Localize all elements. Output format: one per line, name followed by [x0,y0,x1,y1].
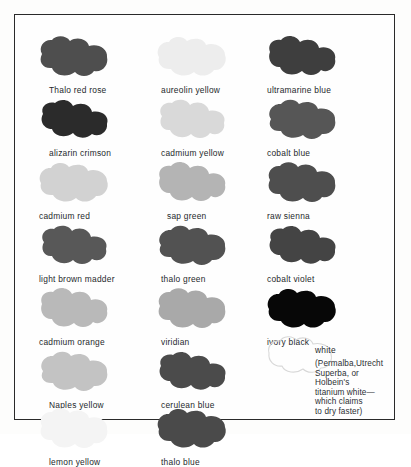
palette-swatch: aureolin yellow [155,35,273,95]
palette-swatch: cadmium red [37,161,155,221]
blob-shape [155,224,231,272]
blob-shape [155,35,231,83]
paint-blob-light-brown-madder [37,224,113,272]
paint-blob-lemon-yellow [37,407,113,455]
paint-blob-thalo-green [155,224,231,272]
swatch-label: cadmium yellow [155,148,273,158]
palette-swatch: viridian [155,287,273,347]
palette-swatch: Thalo red rose [37,35,155,95]
blob-shape [155,287,231,335]
swatch-label: cobalt violet [265,274,383,284]
palette-swatch: thalo green [155,224,273,284]
paint-blob-cerulean-blue [155,350,231,398]
swatch-label: raw sienna [265,211,383,221]
paint-blob-aureolin-yellow [155,35,231,83]
paint-blob-naples-yellow [37,350,113,398]
paint-blob-thalo-blue [155,407,231,455]
palette-swatch: ultramarine blue [265,35,383,95]
palette-swatch: cobalt violet [265,224,383,284]
swatch-label: sap green [155,211,273,221]
blob-shape [37,161,113,209]
blob-shape [37,98,113,146]
palette-swatch: thalo blue [155,407,273,467]
paint-blob-sap-green [155,161,231,209]
chart-frame: Thalo red rosealizarin crimsoncadmium re… [14,14,395,420]
blob-shape [155,98,231,146]
paint-blob-cobalt-violet [265,224,341,272]
swatch-label-white: white [315,345,336,355]
swatch-label: light brown madder [37,274,155,284]
blob-shape [155,350,231,398]
swatch-label: Thalo red rose [37,85,155,95]
swatch-label: cadmium red [37,211,155,221]
blob-shape [265,287,341,335]
paint-blob-thalo-red-rose [37,35,113,83]
paint-blob-viridian [155,287,231,335]
swatch-label: lemon yellow [37,457,155,467]
paint-blob-ultramarine-blue [265,35,341,83]
paint-blob-ivory-black [265,287,341,335]
palette-swatch: cadmium orange [37,287,155,347]
blob-shape [155,161,231,209]
palette-swatch: cerulean blue [155,350,273,410]
paint-blob-alizarin-crimson [37,98,113,146]
palette-swatch: cadmium yellow [155,98,273,158]
palette-swatch: lemon yellow [37,407,155,467]
white-paint-note: (Permalba,Utrecht Superba, or Holbein's … [315,359,383,417]
swatch-label: cobalt blue [265,148,383,158]
palette-swatch: cobalt blue [265,98,383,158]
blob-shape [37,407,113,455]
paint-blob-cadmium-orange [37,287,113,335]
blob-shape [155,407,231,455]
paint-blob-cadmium-yellow [155,98,231,146]
paint-blob-cobalt-blue [265,98,341,146]
blob-shape [265,98,341,146]
palette-swatch: Naples yellow [37,350,155,410]
blob-shape [265,161,341,209]
swatch-label: cadmium orange [37,337,155,347]
blob-shape [37,350,113,398]
swatch-label: alizarin crimson [37,148,155,158]
palette-swatch: raw sienna [265,161,383,221]
blob-shape [265,224,341,272]
palette-swatch: sap green [155,161,273,221]
paint-blob-raw-sienna [265,161,341,209]
swatch-label: thalo green [155,274,273,284]
blob-shape [265,35,341,83]
palette-swatch: light brown madder [37,224,155,284]
paint-blob-cadmium-red [37,161,113,209]
swatch-label: thalo blue [155,457,273,467]
swatch-label: ultramarine blue [265,85,383,95]
blob-shape [37,287,113,335]
swatch-label: viridian [155,337,273,347]
palette-swatch: alizarin crimson [37,98,155,158]
blob-shape [37,224,113,272]
swatch-label: aureolin yellow [155,85,273,95]
blob-shape [37,35,113,83]
